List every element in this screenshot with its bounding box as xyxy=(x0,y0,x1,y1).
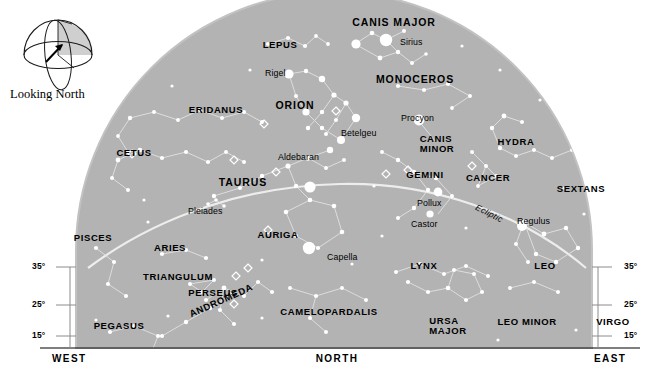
constellation-label: TRIANGULUM xyxy=(143,272,213,282)
star-name-label: Sirius xyxy=(400,38,423,47)
constellation-label: LEO MINOR xyxy=(497,317,556,327)
altitude-right-15: 15° xyxy=(624,331,637,340)
direction-west: WEST xyxy=(52,354,87,364)
constellation-label: LEO xyxy=(534,261,555,271)
altitude-right-25: 25° xyxy=(624,300,637,309)
star-name-label: Castor xyxy=(411,220,438,229)
star-name-label: Rigel xyxy=(265,69,286,78)
star-name-label: Betelgeu xyxy=(341,129,377,138)
constellation-label: ORION xyxy=(276,100,315,111)
altitude-left-15: 15° xyxy=(32,331,45,340)
constellation-label-line: MAJOR xyxy=(429,326,466,336)
star-name-label: Procyon xyxy=(401,114,434,123)
hemisphere-dome-icon xyxy=(24,19,92,91)
constellation-label: CANIS MAJOR xyxy=(352,17,435,28)
compass-caption: Looking North xyxy=(10,88,85,101)
sky-dome xyxy=(76,0,592,348)
constellation-label: AURIGA xyxy=(257,230,298,240)
direction-east: EAST xyxy=(594,354,626,364)
constellation-label: HYDRA xyxy=(498,137,535,147)
constellation-label: TAURUS xyxy=(219,177,267,188)
constellation-label: URSAMAJOR xyxy=(429,316,466,336)
constellation-label: PEGASUS xyxy=(94,321,145,331)
constellation-label: LEPUS xyxy=(263,40,298,50)
constellation-label: ERIDANUS xyxy=(189,105,243,115)
constellation-label: LYNX xyxy=(411,261,438,271)
constellation-label-line: MINOR xyxy=(420,144,455,154)
constellation-label: PISCES xyxy=(74,233,112,243)
altitude-right-35: 35° xyxy=(624,262,637,271)
constellation-label: CANISMINOR xyxy=(420,134,455,154)
constellation-label: MONOCEROS xyxy=(376,74,454,85)
star-name-label: Capella xyxy=(327,253,358,262)
constellation-label: CANCER xyxy=(466,173,510,183)
constellation-label: CETUS xyxy=(116,148,151,158)
altitude-scale-right xyxy=(592,267,612,348)
direction-north: NORTH xyxy=(316,354,359,364)
constellation-label: CAMELOPARDALIS xyxy=(280,307,377,317)
star-name-label: Aldebaran xyxy=(278,153,319,162)
star-chart: LEPUSCANIS MAJORMONOCEROSERIDANUSORIONCE… xyxy=(0,0,668,378)
star-name-label: Pollux xyxy=(417,199,442,208)
constellation-label: VIRGO xyxy=(596,317,630,327)
constellation-label: SEXTANS xyxy=(557,184,605,194)
constellation-label: GEMINI xyxy=(406,170,443,180)
star-name-label: Pleiades xyxy=(188,207,223,216)
altitude-scale-left xyxy=(56,267,76,348)
star-name-label: Regulus xyxy=(517,217,550,226)
altitude-left-35: 35° xyxy=(32,262,45,271)
constellation-label: ARIES xyxy=(154,243,186,253)
altitude-left-25: 25° xyxy=(32,300,45,309)
